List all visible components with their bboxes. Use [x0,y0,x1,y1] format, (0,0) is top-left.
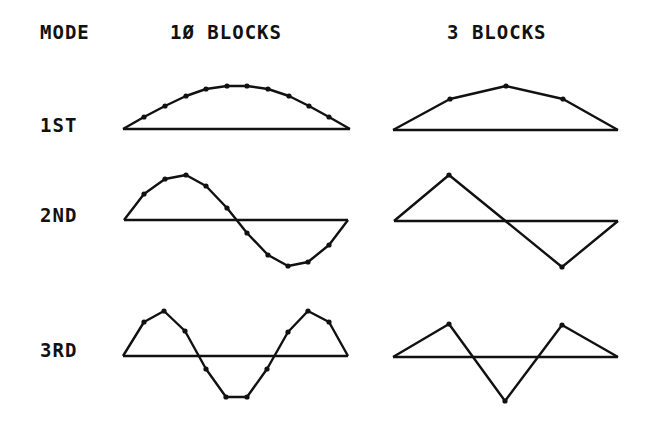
block-node-icon [446,172,451,177]
block-node-icon [203,183,208,188]
block-node-icon [286,93,291,98]
block-node-icon [326,242,331,247]
mode-shape-1st-3-blocks [393,83,618,130]
block-node-icon [305,259,310,264]
block-node-icon [224,205,229,210]
block-node-icon [141,114,146,119]
block-node-icon [285,329,290,334]
block-node-icon [182,328,187,333]
block-node-icon [559,264,564,269]
block-node-icon [141,191,146,196]
block-node-icon [305,308,310,313]
block-node-icon [264,366,269,371]
block-node-icon [223,394,228,399]
block-node-icon [162,103,167,108]
block-node-icon [502,398,507,403]
mode-shape-3rd-3-blocks [393,321,618,403]
block-node-icon [244,230,249,235]
block-node-icon [560,96,565,101]
deflection-curve [393,86,618,130]
mode-shape-3rd-10-blocks [123,308,348,399]
mode-shape-1st-10-blocks [123,83,350,129]
block-node-icon [183,93,188,98]
block-node-icon [183,172,188,177]
block-node-icon [326,114,331,119]
block-node-icon [203,366,208,371]
mode-shape-2nd-10-blocks [124,172,348,268]
block-node-icon [244,83,249,88]
block-node-icon [161,308,166,313]
deflection-curve [393,324,618,401]
mode-shape-diagram [0,0,645,425]
block-node-icon [503,83,508,88]
block-node-icon [559,322,564,327]
deflection-curve [123,86,350,129]
block-node-icon [162,176,167,181]
block-node-icon [244,394,249,399]
deflection-curve [123,311,348,397]
mode-shape-2nd-3-blocks [394,172,618,269]
block-node-icon [306,103,311,108]
block-node-icon [326,319,331,324]
block-node-icon [265,252,270,257]
block-node-icon [446,321,451,326]
block-node-icon [203,86,208,91]
block-node-icon [265,86,270,91]
block-node-icon [447,96,452,101]
block-node-icon [141,319,146,324]
block-node-icon [224,83,229,88]
block-node-icon [285,263,290,268]
